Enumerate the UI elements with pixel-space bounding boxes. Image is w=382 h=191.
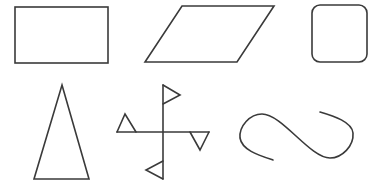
top-flag-triangle: [163, 85, 180, 104]
cross-with-flags-shape: [117, 85, 209, 179]
shapes-svg: [0, 0, 382, 191]
rectangle-shape: [15, 7, 108, 63]
bottom-flag-triangle: [146, 161, 163, 179]
isosceles-triangle-shape: [34, 85, 89, 179]
rounded-square-shape: [312, 5, 367, 62]
left-flag-triangle: [117, 114, 136, 132]
shapes-canvas: [0, 0, 382, 191]
s-curve-shape: [240, 112, 353, 160]
right-flag-triangle: [190, 132, 209, 150]
parallelogram-shape: [145, 6, 274, 62]
